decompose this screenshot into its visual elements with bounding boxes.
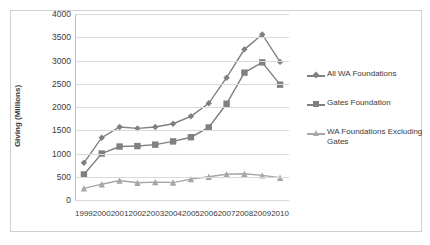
- x-axis-tick-labels: 1999200020012002200320042005200620072008…: [75, 207, 289, 221]
- legend-marker-icon: [307, 99, 325, 110]
- legend-marker-icon: [307, 128, 325, 139]
- x-axis-tick: 2007: [218, 207, 236, 221]
- x-axis-tick: 2005: [182, 207, 200, 221]
- x-axis-tick: 2003: [146, 207, 164, 221]
- x-axis-tick: 2010: [271, 207, 289, 221]
- x-axis-tick: 2000: [93, 207, 111, 221]
- gridline: [75, 37, 289, 38]
- legend-item[interactable]: WA Foundations Excluding Gates: [307, 127, 423, 147]
- y-axis-tick-labels: 05001000150020002500300035004000: [31, 11, 71, 233]
- y-axis-tick: 2000: [37, 103, 71, 112]
- y-axis-tick: 500: [37, 173, 71, 182]
- x-axis-tick: 2009: [253, 207, 271, 221]
- legend-label: Gates Foundation: [325, 98, 391, 108]
- gridline: [75, 130, 289, 131]
- gridline: [75, 200, 289, 201]
- x-axis-tick: 2008: [235, 207, 253, 221]
- plot-area: [75, 14, 289, 200]
- legend-item[interactable]: All WA Foundations: [307, 69, 423, 81]
- series-1: [81, 59, 284, 177]
- y-axis-tick: 3500: [37, 33, 71, 42]
- gridline: [75, 107, 289, 108]
- x-axis-tick: 2004: [164, 207, 182, 221]
- y-axis-tick: 0: [37, 196, 71, 205]
- gridline: [75, 154, 289, 155]
- y-axis-tick: 2500: [37, 80, 71, 89]
- gridline: [75, 177, 289, 178]
- chart-figure: Giving (Millions) 0500100015002000250030…: [10, 10, 422, 232]
- x-axis-tick: 2006: [200, 207, 218, 221]
- chart-legend: All WA FoundationsGates FoundationWA Fou…: [307, 69, 423, 164]
- y-axis-tick: 4000: [37, 10, 71, 19]
- x-axis-tick: 2001: [111, 207, 129, 221]
- gridline: [75, 14, 289, 15]
- x-axis-tick: 2002: [128, 207, 146, 221]
- y-axis-tick: 3000: [37, 57, 71, 66]
- y-axis-tick: 1500: [37, 126, 71, 135]
- gridline: [75, 61, 289, 62]
- gridline: [75, 84, 289, 85]
- legend-label: All WA Foundations: [325, 69, 397, 79]
- legend-marker-icon: [307, 70, 325, 81]
- legend-label: WA Foundations Excluding Gates: [325, 127, 423, 147]
- y-axis-tick: 1000: [37, 150, 71, 159]
- y-axis-label: Giving (Millions): [13, 61, 22, 171]
- legend-item[interactable]: Gates Foundation: [307, 98, 423, 110]
- series-0: [81, 31, 284, 166]
- series-2: [81, 171, 284, 192]
- x-axis-tick: 1999: [75, 207, 93, 221]
